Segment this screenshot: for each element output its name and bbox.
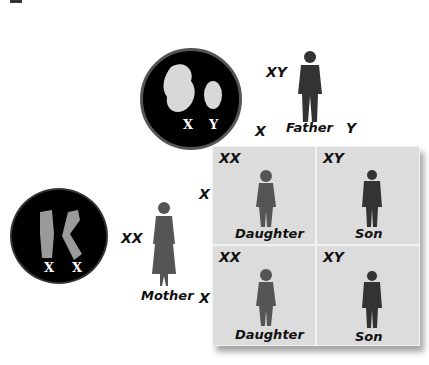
father-chromosome-y: Y bbox=[209, 117, 218, 132]
son-figure-icon bbox=[361, 270, 383, 330]
daughter-figure-icon bbox=[255, 268, 277, 328]
mother-figure-icon bbox=[148, 200, 180, 286]
mother-label: Mother bbox=[141, 288, 194, 303]
cell-son-1: XY Son bbox=[316, 146, 420, 245]
row-header-x1: X bbox=[199, 186, 210, 202]
chromosome-xx-icon bbox=[12, 190, 106, 282]
chromosome-xy-icon bbox=[143, 51, 239, 147]
punnett-square: XX Daughter XY Son XX Daughter XY Son bbox=[212, 146, 420, 346]
mother-chromosome-circle: X X bbox=[10, 188, 108, 284]
cell-daughter-2: XX Daughter bbox=[212, 245, 316, 346]
father-figure-icon bbox=[290, 50, 330, 124]
daughter-figure-icon bbox=[255, 169, 277, 229]
mother-chromosome-x1: X bbox=[44, 260, 54, 275]
father-chromosome-circle: X Y bbox=[140, 48, 242, 150]
row-header-x2: X bbox=[199, 290, 210, 306]
mother-chromosome-x2: X bbox=[72, 260, 82, 275]
father-genotype: XY bbox=[266, 64, 287, 80]
cell-son-2: XY Son bbox=[316, 245, 420, 346]
cell-genotype: XY bbox=[323, 150, 344, 166]
cell-label: Son bbox=[355, 329, 383, 344]
cell-genotype: XX bbox=[219, 249, 241, 265]
cell-label: Daughter bbox=[235, 327, 304, 342]
top-left-fragment bbox=[10, 0, 22, 3]
cell-genotype: XY bbox=[323, 249, 344, 265]
mother-genotype: XX bbox=[121, 230, 143, 246]
column-header-y: Y bbox=[346, 120, 356, 136]
father-chromosome-x: X bbox=[183, 117, 193, 132]
cell-genotype: XX bbox=[219, 150, 241, 166]
column-header-x: X bbox=[255, 123, 266, 139]
cell-daughter-1: XX Daughter bbox=[212, 146, 316, 245]
father-label: Father bbox=[286, 120, 333, 135]
cell-label: Son bbox=[355, 226, 383, 241]
cell-label: Daughter bbox=[235, 226, 304, 241]
son-figure-icon bbox=[361, 169, 383, 229]
